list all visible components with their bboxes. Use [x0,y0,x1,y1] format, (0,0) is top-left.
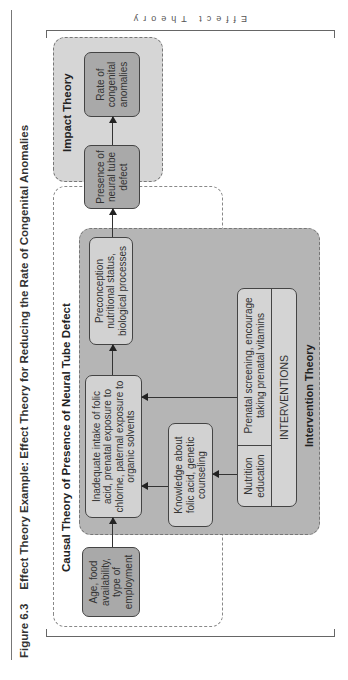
header-rule [11,10,12,660]
arrow-inadequate-to-preconception [112,345,113,375]
node-age-food-employment: Age, food availability, type of employme… [82,547,140,617]
node-rate-of-congenital-anomalies: Rate of congenital anomalies [84,52,140,117]
intervention-theory-label: Intervention Theory [303,344,315,447]
bracket-left [46,629,335,637]
intervention-nutrition-education: Nutrition education [238,446,271,506]
impact-theory-label: Impact Theory [61,73,73,152]
figure-title: Figure 6.3Effect Theory Example: Effect … [18,125,30,658]
arrow-knowledge-to-inadequate [142,486,168,487]
arrow-preconception-to-presence [112,209,113,237]
node-preconception-status: Preconception nutritional status, biolog… [89,237,133,345]
node-knowledge: Knowledge about folic acid, genetic coun… [168,423,213,527]
arrow-prenatal-to-inadequate [142,397,237,398]
interventions-label: INTERVENTIONS [272,289,298,506]
intervention-prenatal-screening: Prenatal screening, encourage taking pre… [238,287,271,444]
interventions-box: Nutrition education Prenatal screening, … [237,288,297,507]
figure-number: Figure 6.3 [18,604,30,658]
node-presence-of-neural-tube-defect: Presence of neural tube defect [84,145,140,209]
effect-theory-side-label: Effect Theory [112,12,264,26]
node-inadequate-intake: Inadequate intake of folic acid, prenata… [85,375,142,518]
arrow-age-to-inadequate [112,518,113,547]
effect-theory-diagram: Figure 6.3Effect Theory Example: Effect … [0,0,348,680]
arrow-nutrition-to-knowledge [213,474,237,475]
causal-theory-label: Causal Theory of Presence of Neural Tube… [60,303,72,572]
figure-caption: Effect Theory Example: Effect Theory for… [18,125,30,590]
arrow-presence-to-rate [112,117,113,145]
